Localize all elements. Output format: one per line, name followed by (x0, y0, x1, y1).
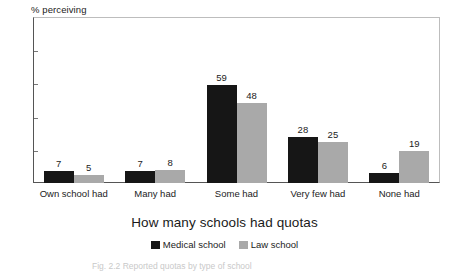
bar-value-label: 7 (56, 158, 61, 169)
legend-label: Law school (251, 239, 299, 250)
bar-group: 75 (44, 17, 104, 183)
bar: 8 (155, 170, 185, 183)
bar: 19 (399, 151, 429, 183)
bar-value-label: 19 (409, 138, 420, 149)
bar-value-label: 5 (86, 162, 91, 173)
bar: 7 (44, 171, 74, 183)
bar-group: 2825 (288, 17, 348, 183)
bar-value-label: 28 (298, 124, 309, 135)
legend-swatch-icon (151, 241, 160, 249)
bar-value-label: 7 (137, 158, 142, 169)
bar-value-label: 59 (216, 72, 227, 83)
legend-item: Medical school (151, 239, 226, 250)
legend-item: Law school (239, 239, 299, 250)
bar: 5 (74, 175, 104, 183)
y-tick-mark (34, 84, 38, 85)
bar-value-label: 8 (167, 157, 172, 168)
x-category-label: Very few had (290, 188, 345, 199)
bar-value-label: 6 (382, 160, 387, 171)
bar: 25 (318, 142, 348, 184)
x-category-label: Some had (215, 188, 258, 199)
bar-value-label: 48 (246, 90, 257, 101)
figure-caption: Fig. 2.2 Reported quotas by type of scho… (92, 261, 252, 271)
x-axis-title: How many schools had quotas (0, 215, 449, 230)
bar-group: 5948 (207, 17, 267, 183)
bar: 59 (207, 85, 237, 183)
legend: Medical schoolLaw school (0, 239, 449, 250)
bar: 48 (237, 103, 267, 183)
x-category-label: None had (379, 188, 420, 199)
bar: 28 (288, 137, 318, 183)
legend-swatch-icon (239, 241, 248, 249)
bar-group: 619 (369, 17, 429, 183)
y-tick-mark (34, 51, 38, 52)
y-tick-mark (34, 118, 38, 119)
bar: 7 (125, 171, 155, 183)
y-axis-title: % perceiving (31, 4, 87, 15)
x-category-label: Own school had (40, 188, 108, 199)
bar-group: 78 (125, 17, 185, 183)
bar: 6 (369, 173, 399, 183)
x-category-label: Many had (134, 188, 176, 199)
legend-label: Medical school (163, 239, 226, 250)
bar-value-label: 25 (328, 129, 339, 140)
y-tick-mark (34, 151, 38, 152)
